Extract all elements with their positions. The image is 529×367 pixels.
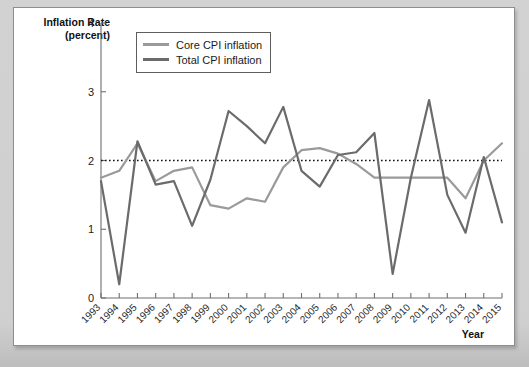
x-tick-label: 2007 <box>334 301 358 325</box>
series-path-total-cpi-inflation <box>101 100 502 284</box>
x-tick-label: 2000 <box>206 301 230 325</box>
x-tick-label: 2006 <box>316 301 340 325</box>
legend-item-total-cpi: Total CPI inflation <box>143 52 262 67</box>
x-tick-label: 2005 <box>298 301 322 325</box>
x-tick-label: 2013 <box>443 301 467 325</box>
y-axis: 01234 <box>88 17 106 304</box>
x-tick-label: 2012 <box>425 301 449 325</box>
legend-swatch-total-cpi <box>143 58 169 61</box>
x-tick-label: 1993 <box>79 301 103 325</box>
legend-label-core-cpi: Core CPI inflation <box>176 39 262 51</box>
x-tick-label: 1997 <box>152 301 176 325</box>
x-tick-label: 2002 <box>243 301 267 325</box>
y-tick-label: 4 <box>88 17 94 29</box>
x-tick-label: 2015 <box>480 301 504 325</box>
x-axis-title: Year <box>462 328 484 340</box>
y-tick-label: 3 <box>88 86 94 98</box>
x-tick-label: 1999 <box>188 301 212 325</box>
x-tick-label: 1996 <box>134 301 158 325</box>
x-tick-label: 2008 <box>352 301 376 325</box>
x-axis: 1993199419951996199719981999200020012002… <box>79 293 504 325</box>
x-tick-label: 1995 <box>115 301 139 325</box>
legend-item-core-cpi: Core CPI inflation <box>143 37 262 52</box>
x-tick-label: 2001 <box>225 301 249 325</box>
x-tick-label: 2004 <box>279 301 303 325</box>
x-tick-label: 1994 <box>97 301 121 325</box>
data-series-group <box>101 100 502 284</box>
y-tick-label: 2 <box>88 155 94 167</box>
chart-card: Inflation Rate (percent) 01234 199319941… <box>13 7 515 346</box>
x-tick-label: 2010 <box>389 301 413 325</box>
x-tick-label: 2011 <box>408 301 431 324</box>
y-tick-label: 1 <box>88 223 94 235</box>
x-tick-label: 2014 <box>462 301 486 325</box>
x-tick-label: 2009 <box>371 301 395 325</box>
x-tick-label: 1998 <box>170 301 194 325</box>
legend-label-total-cpi: Total CPI inflation <box>176 54 262 66</box>
x-tick-label: 2003 <box>261 301 285 325</box>
series-path-core-cpi-inflation <box>101 143 502 208</box>
chart-legend: Core CPI inflation Total CPI inflation <box>136 32 271 73</box>
legend-swatch-core-cpi <box>143 43 169 46</box>
